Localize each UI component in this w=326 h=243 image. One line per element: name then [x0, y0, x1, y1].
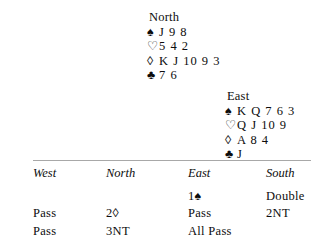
hand-north-clubs-cards: 7 6 [159, 68, 178, 83]
auction-divider [33, 160, 311, 161]
hand-north-hearts-cards: 5 4 2 [159, 39, 189, 54]
auction-row: Pass 2◊ Pass 2NT [33, 205, 326, 223]
heart-symbol-icon: ♡ [225, 118, 237, 133]
spade-symbol-icon: ♠ [225, 104, 237, 119]
bid-cell: All Pass [188, 223, 266, 241]
spade-symbol-icon: ♠ [147, 25, 159, 40]
hand-east-spades-cards: K Q 7 6 3 [237, 104, 295, 119]
hand-north: North ♠ J 9 8 ♡ 5 4 2 ◊ K J 10 9 3 ♣ 7 6 [147, 10, 220, 83]
heart-symbol-icon: ♡ [147, 39, 159, 54]
bid-cell: 2NT [266, 205, 326, 223]
hand-east-diamonds-row: ◊ A 8 4 [225, 133, 295, 148]
auction-header-south: South [266, 165, 326, 188]
hand-north-diamonds-cards: K J 10 9 3 [159, 54, 220, 69]
bid-cell [266, 223, 326, 241]
hand-east-spades-row: ♠ K Q 7 6 3 [225, 104, 295, 119]
auction-header-north: North [106, 165, 188, 188]
auction-header-west: West [33, 165, 106, 188]
auction-header-row: West North East South [33, 165, 326, 188]
bid-cell: Pass [188, 205, 266, 223]
hand-north-spades-row: ♠ J 9 8 [147, 25, 220, 40]
bid-cell [33, 188, 106, 206]
bid-cell: Double [266, 188, 326, 206]
hand-north-hearts-row: ♡ 5 4 2 [147, 39, 220, 54]
hand-east-hearts-cards: Q J 10 9 [237, 118, 287, 133]
hand-east-diamonds-cards: A 8 4 [237, 133, 269, 148]
hand-north-diamonds-row: ◊ K J 10 9 3 [147, 54, 220, 69]
auction-row: Pass 3NT All Pass [33, 223, 326, 241]
hand-east-hearts-row: ♡ Q J 10 9 [225, 118, 295, 133]
club-symbol-icon: ♣ [147, 68, 159, 83]
hand-north-clubs-row: ♣ 7 6 [147, 68, 220, 83]
hand-east: East ♠ K Q 7 6 3 ♡ Q J 10 9 ◊ A 8 4 ♣ J [225, 89, 295, 162]
auction-row: 1♠ Double [33, 188, 326, 206]
bid-cell: 3NT [106, 223, 188, 241]
auction-header-east: East [188, 165, 266, 188]
bid-cell: 2◊ [106, 205, 188, 223]
auction-table: West North East South 1♠ Double Pass 2◊ … [33, 165, 326, 240]
diamond-symbol-icon: ◊ [147, 54, 159, 69]
hand-north-label: North [149, 10, 220, 25]
diamond-symbol-icon: ◊ [225, 133, 237, 148]
hand-north-spades-cards: J 9 8 [159, 25, 188, 40]
bid-cell: 1♠ [188, 188, 266, 206]
hand-east-label: East [227, 89, 295, 104]
bid-cell [106, 188, 188, 206]
bid-cell: Pass [33, 223, 106, 241]
bid-cell: Pass [33, 205, 106, 223]
